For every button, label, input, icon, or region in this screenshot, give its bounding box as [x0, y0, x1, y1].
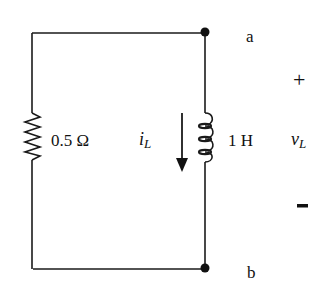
circuit-diagram: a b 0.5 Ω iL 1 H + vL — [0, 0, 335, 296]
node-a-dot — [201, 28, 210, 37]
current-subscript: L — [143, 136, 151, 151]
node-a-label: a — [246, 27, 254, 46]
current-arrow-icon — [176, 113, 188, 172]
resistor-icon — [25, 113, 40, 160]
current-label: iL — [139, 129, 151, 151]
voltage-label: vL — [291, 129, 306, 151]
node-b-dot — [201, 264, 210, 273]
node-b-label: b — [247, 263, 256, 282]
voltage-minus-label — [297, 204, 308, 208]
resistor-value-label: 0.5 Ω — [51, 131, 89, 150]
voltage-symbol: v — [291, 129, 299, 149]
voltage-plus-label: + — [293, 67, 305, 92]
inductor-icon — [199, 113, 213, 162]
inductor-value-label: 1 H — [228, 131, 253, 150]
voltage-subscript: L — [298, 136, 306, 151]
